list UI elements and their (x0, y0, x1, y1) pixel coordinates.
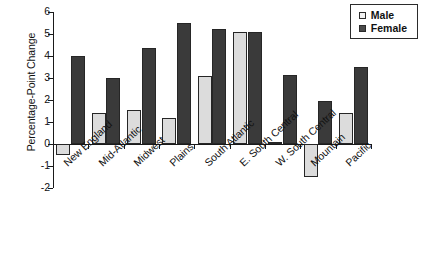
bar-female-4 (212, 29, 226, 145)
legend-label-female: Female (371, 22, 407, 34)
y-tick-label: 6 (44, 5, 50, 17)
legend-label-male: Male (371, 9, 394, 21)
y-tick-label: 4 (44, 49, 50, 61)
y-axis-line (53, 12, 54, 188)
y-tick-label: 2 (44, 93, 50, 105)
y-tick-label: -1 (41, 159, 50, 171)
bar-male-4 (198, 76, 212, 144)
legend-item-male: Male (359, 9, 407, 21)
y-axis-title: Percentage-Point Change (25, 0, 37, 187)
y-tick-label: 3 (44, 71, 50, 83)
y-tick-label: 1 (44, 115, 50, 127)
y-tick-label: -2 (41, 181, 50, 193)
bar-female-3 (177, 23, 191, 144)
y-tick-label: 5 (44, 27, 50, 39)
bar-chart: Percentage-Point Change 6543210-1-2 New … (0, 0, 426, 266)
legend-swatch-female-icon (359, 25, 366, 32)
legend-swatch-male-icon (359, 12, 366, 19)
bar-female-1 (106, 78, 120, 144)
bar-female-8 (354, 67, 368, 144)
bar-female-2 (142, 48, 156, 144)
bar-female-0 (71, 56, 85, 144)
legend-item-female: Female (359, 22, 407, 34)
y-tick-label: 0 (44, 137, 50, 149)
chart-legend: Male Female (350, 4, 418, 39)
